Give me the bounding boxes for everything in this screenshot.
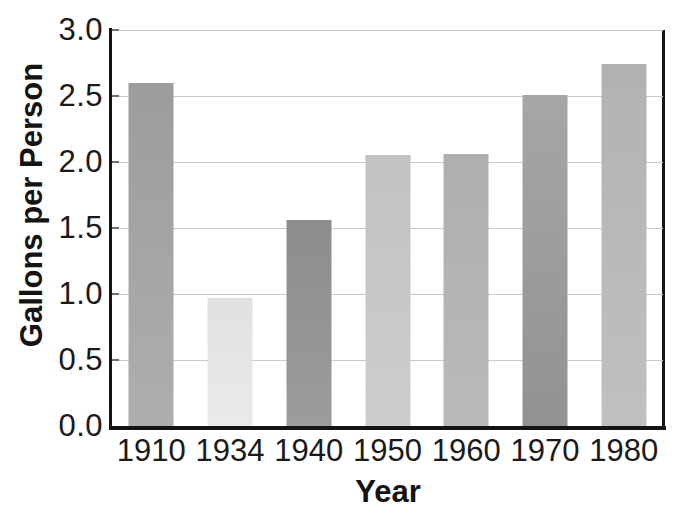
bar-1960	[444, 154, 489, 426]
y-axis-title: Gallons per Person	[14, 63, 50, 347]
y-tick-label: 3.0	[58, 12, 103, 48]
bar-1910	[129, 83, 174, 426]
y-axis-tick	[112, 29, 119, 31]
right-axis-line	[662, 30, 665, 428]
y-tick-label: 1.0	[58, 276, 103, 312]
gridline	[112, 96, 663, 97]
x-tick-label: 1934	[196, 433, 265, 469]
x-axis-title: Year	[355, 474, 421, 510]
bar-1970	[522, 95, 567, 426]
x-tick-label: 1970	[510, 433, 579, 469]
gridline	[112, 30, 663, 31]
y-axis-tick	[112, 161, 119, 163]
y-axis-tick	[112, 293, 119, 295]
bar-1934	[208, 298, 253, 426]
x-tick-label: 1960	[432, 433, 501, 469]
bar-1950	[365, 155, 410, 426]
y-tick-label: 0.0	[58, 408, 103, 444]
x-tick-label: 1950	[353, 433, 422, 469]
y-tick-label: 2.0	[58, 144, 103, 180]
bar-1940	[286, 220, 331, 426]
x-tick-label: 1940	[274, 433, 343, 469]
y-tick-label: 0.5	[58, 342, 103, 378]
y-axis-tick	[112, 95, 119, 97]
y-tick-label: 1.5	[58, 210, 103, 246]
bar-chart-figure: Gallons per Person 3.02.52.01.51.00.50.0…	[0, 0, 675, 526]
x-axis-line	[109, 426, 666, 430]
y-axis-tick	[112, 359, 119, 361]
y-tick-label: 2.5	[58, 78, 103, 114]
x-tick-label: 1910	[117, 433, 186, 469]
plot-area	[112, 30, 663, 426]
bar-1980	[601, 64, 646, 426]
y-axis-tick	[112, 227, 119, 229]
x-tick-label: 1980	[589, 433, 658, 469]
